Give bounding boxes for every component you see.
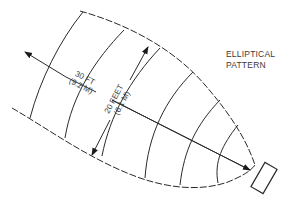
length-label: 30 FT (9.2 M): [68, 68, 99, 96]
elliptical-pattern-diagram: 30 FT (9.2 M) 20 FEET (6.1 M) ELLIPTICAL…: [0, 0, 288, 205]
pattern-title-line1: ELLIPTICAL: [226, 49, 275, 59]
length-arrow: [25, 52, 250, 170]
contour-arcs: [30, 12, 238, 185]
source-device: [251, 162, 277, 193]
pattern-title-line2: PATTERN: [226, 60, 266, 70]
